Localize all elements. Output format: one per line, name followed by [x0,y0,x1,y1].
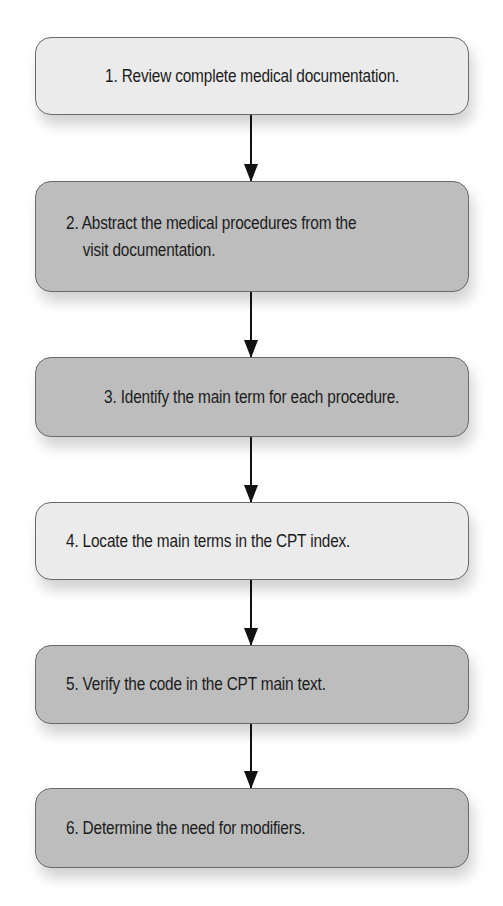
flow-step-2-line-1: 2. Abstract the medical procedures from … [66,210,356,237]
arrow-down-icon [250,292,252,357]
arrow-down-icon [250,724,252,788]
flow-step-2-line-2: visit documentation. [66,237,356,264]
flow-step-2-label: 2. Abstract the medical procedures from … [66,210,356,264]
flow-step-5-label: 5. Verify the code in the CPT main text. [66,671,326,698]
flow-step-5: 5. Verify the code in the CPT main text. [35,645,469,724]
flow-step-1: 1. Review complete medical documentation… [35,37,469,115]
flow-step-3: 3. Identify the main term for each proce… [35,357,469,437]
flow-step-4: 4. Locate the main terms in the CPT inde… [35,502,469,580]
flow-step-6-label: 6. Determine the need for modifiers. [66,815,305,842]
flow-step-3-label: 3. Identify the main term for each proce… [104,384,399,411]
flow-step-4-label: 4. Locate the main terms in the CPT inde… [66,528,350,555]
cropped-title [0,0,503,4]
flow-step-1-label: 1. Review complete medical documentation… [105,63,399,90]
arrow-down-icon [250,580,252,645]
arrow-down-icon [250,437,252,502]
flow-step-2: 2. Abstract the medical procedures from … [35,181,469,292]
arrow-down-icon [250,115,252,181]
flow-step-6: 6. Determine the need for modifiers. [35,788,469,868]
